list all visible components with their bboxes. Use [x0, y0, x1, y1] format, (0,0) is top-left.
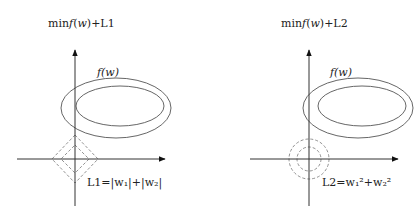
- panel-title: minf(w)+L1: [48, 17, 115, 30]
- regularization-diagram: minf(w)+L1 f(w) L1=|w₁|+|w₂| minf(w)+L2 …: [0, 0, 418, 217]
- inner-contour: [318, 86, 406, 126]
- inner-contour: [76, 86, 164, 126]
- panel-l2: minf(w)+L2 f(w) L2=w₁²+w₂²: [250, 17, 413, 206]
- outer-contour: [61, 78, 171, 138]
- constraint-label: L1=|w₁|+|w₂|: [87, 176, 162, 190]
- contour-label: f(w): [96, 66, 119, 79]
- contour-label: f(w): [329, 66, 352, 79]
- panel-title: minf(w)+L2: [281, 17, 348, 30]
- constraint-label: L2=w₁²+w₂²: [322, 176, 391, 189]
- outer-contour: [303, 78, 413, 138]
- panel-l1: minf(w)+L1 f(w) L1=|w₁|+|w₂|: [17, 17, 171, 206]
